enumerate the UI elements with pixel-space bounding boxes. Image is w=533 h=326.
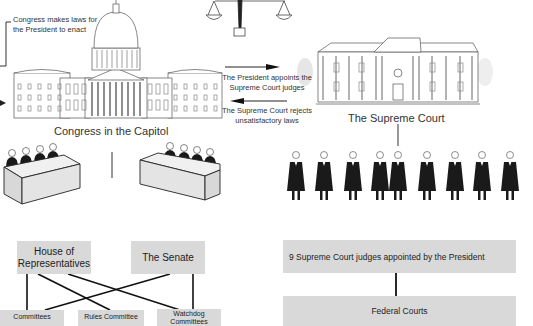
appoints-line2: Supreme Court judges xyxy=(212,83,322,93)
federal-courts-label: Federal Courts xyxy=(371,306,427,316)
congress-chart-connectors xyxy=(27,274,193,310)
congress-note-line1: Congress makes laws for xyxy=(13,15,97,25)
committees-label: Committees xyxy=(13,313,50,320)
watchdog-committees-box: Watchdog Committees xyxy=(157,309,221,326)
rejects-line2: unsatisfactory laws xyxy=(212,116,322,126)
supreme-court-judges-box: 9 Supreme Court judges appointed by the … xyxy=(283,240,516,273)
appoints-line1: The President appoints the xyxy=(212,73,322,83)
senate-box: The Senate xyxy=(131,241,205,274)
reject-arrow-icon xyxy=(230,98,287,104)
congress-note-line2: the President to enact xyxy=(13,25,97,35)
federal-courts-box: Federal Courts xyxy=(283,296,516,326)
judge-figure-icon xyxy=(344,152,362,201)
judge-figure-icon xyxy=(446,152,464,201)
judge-figure-icon xyxy=(501,152,519,201)
supreme-court-building-icon xyxy=(297,38,493,104)
judge-figure-icon xyxy=(473,152,491,201)
rejects-line1: The Supreme Court rejects xyxy=(212,106,322,116)
judge-figure-icon xyxy=(371,152,389,201)
house-line2: Representatives xyxy=(18,258,90,270)
congress-desk-right-icon xyxy=(140,143,220,201)
rules-committee-box: Rules Committee xyxy=(78,310,144,326)
senate-label: The Senate xyxy=(142,252,194,263)
congress-desk-left-icon xyxy=(4,144,80,205)
judge-figure-icon xyxy=(389,152,407,201)
left-arrow-icon xyxy=(0,100,6,106)
judge-figure-icon xyxy=(287,152,305,201)
judges-box-label: 9 Supreme Court judges appointed by the … xyxy=(289,252,485,262)
scales-of-justice-icon xyxy=(206,0,292,36)
watchdog-line2: Committees xyxy=(170,318,207,326)
congress-note-bracket xyxy=(0,22,11,66)
diagram-graphics xyxy=(0,0,533,326)
rules-committee-label: Rules Committee xyxy=(84,313,138,320)
judge-figure-icon xyxy=(418,152,436,201)
house-line1: House of xyxy=(34,246,74,258)
court-rejects-note: The Supreme Court rejects unsatisfactory… xyxy=(212,106,322,126)
judges-group xyxy=(287,152,519,201)
watchdog-line1: Watchdog xyxy=(173,310,204,318)
capitol-label: Congress in the Capitol xyxy=(54,125,168,137)
appoint-arrow-icon xyxy=(225,64,280,70)
congress-laws-note: Congress makes laws for the President to… xyxy=(13,15,97,35)
supreme-court-label: The Supreme Court xyxy=(348,112,445,124)
president-appoints-note: The President appoints the Supreme Court… xyxy=(212,73,322,93)
house-of-representatives-box: House of Representatives xyxy=(17,241,91,274)
judge-figure-icon xyxy=(315,152,333,201)
committees-box: Committees xyxy=(0,310,64,326)
